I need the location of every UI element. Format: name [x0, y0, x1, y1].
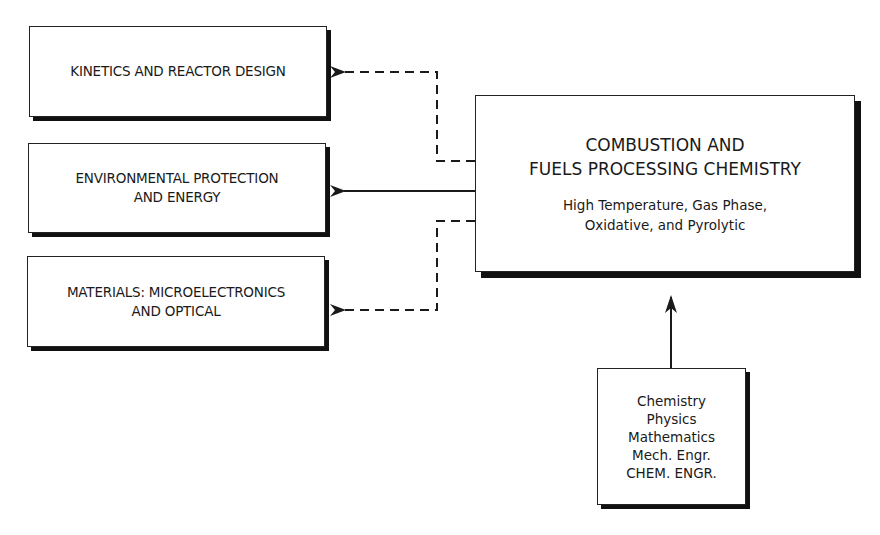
box-label: MATERIALS: MICROELECTRONICS AND OPTICAL	[67, 283, 285, 321]
dashed-arrow-kinetics	[344, 72, 475, 161]
central-subtitle: High Temperature, Gas Phase, Oxidative, …	[563, 195, 767, 235]
box-label: ENVIRONMENTAL PROTECTION AND ENERGY	[76, 169, 279, 207]
box-environmental-protection: ENVIRONMENTAL PROTECTION AND ENERGY	[28, 143, 326, 233]
discipline-mathematics: Mathematics	[628, 428, 715, 446]
dashed-arrow-materials	[344, 221, 475, 310]
discipline-mech-engr: Mech. Engr.	[632, 446, 711, 464]
box-label: KINETICS AND REACTOR DESIGN	[70, 62, 286, 81]
discipline-chem-engr: CHEM. ENGR.	[626, 464, 717, 482]
box-foundation-disciplines: Chemistry Physics Mathematics Mech. Engr…	[597, 368, 746, 505]
box-kinetics-reactor-design: KINETICS AND REACTOR DESIGN	[29, 26, 327, 117]
box-materials: MATERIALS: MICROELECTRONICS AND OPTICAL	[27, 256, 325, 347]
box-combustion-chemistry: COMBUSTION AND FUELS PROCESSING CHEMISTR…	[475, 95, 855, 272]
discipline-physics: Physics	[647, 410, 697, 428]
discipline-chemistry: Chemistry	[637, 392, 706, 410]
central-title: COMBUSTION AND FUELS PROCESSING CHEMISTR…	[529, 133, 801, 181]
